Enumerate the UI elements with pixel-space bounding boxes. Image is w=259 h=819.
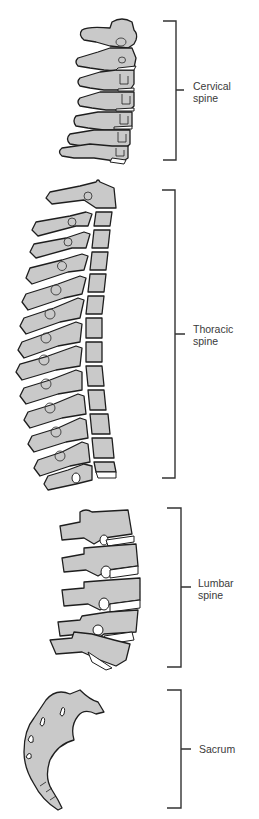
label-lumbar-line2: spine bbox=[198, 589, 234, 601]
bracket-sacrum bbox=[167, 690, 191, 808]
label-cervical-spine: Cervical spine bbox=[193, 80, 231, 104]
label-lumbar-spine: Lumbar spine bbox=[198, 577, 234, 601]
label-cervical-line2: spine bbox=[193, 92, 231, 104]
lumbar-vertebrae bbox=[50, 510, 140, 670]
label-sacrum: Sacrum bbox=[199, 743, 235, 755]
label-lumbar-line1: Lumbar bbox=[198, 577, 234, 589]
cervical-vertebrae bbox=[60, 19, 137, 164]
bracket-lumbar bbox=[167, 508, 191, 667]
label-thoracic-line1: Thoracic bbox=[193, 323, 233, 335]
label-thoracic-spine: Thoracic spine bbox=[193, 323, 233, 347]
bracket-thoracic bbox=[162, 190, 185, 478]
label-sacrum-line1: Sacrum bbox=[199, 743, 235, 755]
bracket-cervical bbox=[163, 21, 184, 160]
thoracic-vertebrae bbox=[16, 180, 116, 490]
spine-illustration bbox=[0, 0, 259, 819]
label-thoracic-line2: spine bbox=[193, 335, 233, 347]
label-cervical-line1: Cervical bbox=[193, 80, 231, 92]
sacrum-bone bbox=[24, 690, 104, 810]
